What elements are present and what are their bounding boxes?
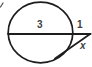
diagram-drawing	[0, 0, 92, 67]
tangent-length-label: x	[80, 41, 86, 51]
external-secant-length-label: 1	[77, 20, 83, 30]
geometry-diagram: 3 1 x	[0, 0, 92, 67]
stray-mark	[1, 3, 4, 7]
chord-length-label: 3	[37, 20, 43, 30]
